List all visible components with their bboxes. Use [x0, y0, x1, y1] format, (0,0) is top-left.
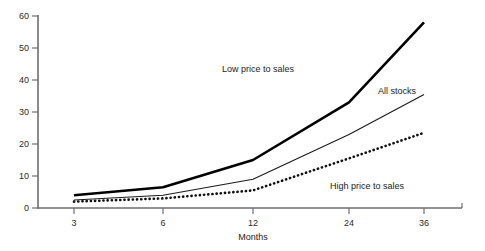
- y-tick-label-10: 10: [19, 171, 29, 181]
- annotation-all-stocks: All stocks: [378, 86, 417, 96]
- y-tick-label-0: 0: [24, 203, 29, 213]
- x-tick-label-24: 24: [344, 218, 354, 228]
- x-tick-label-36: 36: [419, 218, 429, 228]
- y-tick-label-40: 40: [19, 75, 29, 85]
- y-tick-label-50: 50: [19, 43, 29, 53]
- y-tick-label-30: 30: [19, 107, 29, 117]
- y-tick-label-20: 20: [19, 139, 29, 149]
- x-axis-title: Months: [238, 232, 268, 242]
- line-chart: 60 50 40 30 20 10 0 3 6 12 24 36 Months …: [0, 0, 485, 251]
- y-axis: [32, 15, 38, 209]
- x-tick-label-6: 6: [160, 218, 165, 228]
- annotation-low-price-to-sales: Low price to sales: [222, 64, 295, 74]
- annotation-high-price-to-sales: High price to sales: [330, 181, 405, 191]
- series-line-low-price-to-sales: [74, 22, 424, 195]
- x-axis: [38, 203, 462, 214]
- y-tick-label-60: 60: [19, 11, 29, 21]
- x-tick-label-12: 12: [248, 218, 258, 228]
- chart-canvas: 60 50 40 30 20 10 0 3 6 12 24 36 Months …: [0, 0, 485, 251]
- x-tick-label-3: 3: [71, 218, 76, 228]
